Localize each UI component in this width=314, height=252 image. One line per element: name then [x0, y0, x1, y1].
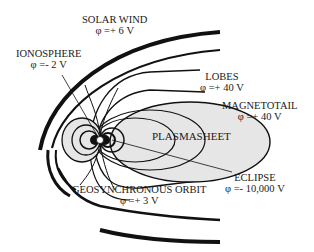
magnetotail-label: MAGNETOTAIL φ =+ 40 V [222, 100, 297, 122]
lobes-label: LOBES φ =+ 40 V [200, 71, 244, 93]
eclipse-name: ECLIPSE [225, 172, 285, 183]
geosynchronous-orbit-name: GEOSYNCHRONOUS ORBIT [72, 184, 206, 195]
ionosphere-name: IONOSPHERE [16, 48, 81, 59]
solar-wind-potential: φ =+ 6 V [82, 25, 147, 36]
plasmasheet-label: PLASMASHEET [152, 131, 231, 142]
geosynchronous-orbit-potential: φ =+ 3 V [72, 195, 206, 206]
plasmasheet-name: PLASMASHEET [152, 131, 231, 142]
magnetotail-name: MAGNETOTAIL [222, 100, 297, 111]
ionosphere-label: IONOSPHERE φ =- 2 V [16, 48, 81, 70]
magnetotail-potential: φ =+ 40 V [222, 111, 297, 122]
solar-wind-label: SOLAR WIND φ =+ 6 V [82, 14, 147, 36]
lobes-name: LOBES [200, 71, 244, 82]
magnetosphere-drawing [0, 0, 314, 252]
ionosphere-potential: φ =- 2 V [16, 59, 81, 70]
magnetosphere-diagram: SOLAR WIND φ =+ 6 V IONOSPHERE φ =- 2 V … [0, 0, 314, 252]
eclipse-potential: φ =- 10,000 V [225, 183, 285, 194]
eclipse-label: ECLIPSE φ =- 10,000 V [225, 172, 285, 194]
geosynchronous-orbit-label: GEOSYNCHRONOUS ORBIT φ =+ 3 V [72, 184, 206, 206]
lobes-potential: φ =+ 40 V [200, 82, 244, 93]
solar-wind-name: SOLAR WIND [82, 14, 147, 25]
earth [97, 137, 104, 144]
